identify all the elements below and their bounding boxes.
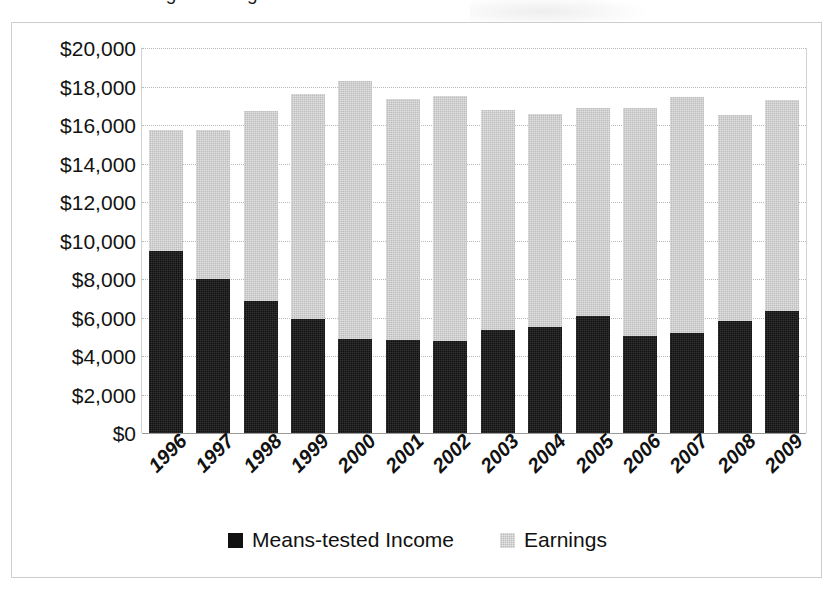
- x-axis-tick-label: 2006: [618, 430, 666, 478]
- x-axis: 1996199719981999200020012002200320042005…: [141, 435, 805, 505]
- bar-segment-means-tested-income[interactable]: [244, 301, 278, 433]
- bar-segment-means-tested-income[interactable]: [670, 333, 704, 433]
- bar-segment-earnings[interactable]: [481, 110, 515, 330]
- bar-segment-earnings[interactable]: [244, 111, 278, 302]
- y-axis-tick-label: $8,000: [18, 269, 136, 290]
- gridline: [142, 356, 806, 357]
- bar-segment-means-tested-income[interactable]: [765, 311, 799, 433]
- bar-segment-earnings[interactable]: [718, 115, 752, 321]
- gridline: [142, 48, 806, 49]
- y-axis-tick-label: $4,000: [18, 346, 136, 367]
- x-axis-tick-label: 1997: [191, 430, 239, 478]
- bar-group[interactable]: [528, 48, 562, 433]
- bar-segment-earnings[interactable]: [291, 94, 325, 319]
- bar-segment-earnings[interactable]: [433, 96, 467, 340]
- bar-group[interactable]: [481, 48, 515, 433]
- axis-baseline: [142, 433, 806, 434]
- gridline: [142, 318, 806, 319]
- bar-segment-means-tested-income[interactable]: [481, 330, 515, 433]
- bar-segment-earnings[interactable]: [338, 81, 372, 339]
- legend-label: Means-tested Income: [252, 528, 454, 552]
- gridline: [142, 241, 806, 242]
- legend-label: Earnings: [524, 528, 607, 552]
- x-axis-tick-label: 2004: [523, 430, 571, 478]
- y-axis: $20,000$18,000$16,000$14,000$12,000$10,0…: [12, 48, 136, 433]
- bar-segment-means-tested-income[interactable]: [623, 336, 657, 433]
- bar-segment-means-tested-income[interactable]: [291, 319, 325, 433]
- bar-group[interactable]: [670, 48, 704, 433]
- bar-group[interactable]: [765, 48, 799, 433]
- bar-segment-earnings[interactable]: [623, 108, 657, 336]
- x-axis-tick-label: 2001: [381, 430, 429, 478]
- y-axis-tick-label: $2,000: [18, 384, 136, 405]
- y-axis-tick-label: $18,000: [18, 76, 136, 97]
- legend-item[interactable]: Earnings: [500, 528, 607, 552]
- plot-area: [141, 48, 807, 433]
- bar-group[interactable]: [196, 48, 230, 433]
- gridline: [142, 87, 806, 88]
- y-axis-tick-label: $20,000: [18, 38, 136, 59]
- x-axis-tick-label: 2000: [333, 430, 381, 478]
- x-axis-tick-label: 2002: [428, 430, 476, 478]
- bar-segment-means-tested-income[interactable]: [338, 339, 372, 433]
- bar-segment-earnings[interactable]: [386, 99, 420, 340]
- bar-segment-means-tested-income[interactable]: [386, 340, 420, 433]
- bar-segment-earnings[interactable]: [528, 114, 562, 327]
- bar-group[interactable]: [386, 48, 420, 433]
- bar-group[interactable]: [623, 48, 657, 433]
- y-axis-tick-label: $0: [18, 423, 136, 444]
- legend-swatch-earnings-icon: [500, 533, 515, 548]
- bar-segment-earnings[interactable]: [670, 97, 704, 333]
- x-axis-tick-label: 1998: [239, 430, 287, 478]
- bar-segment-earnings[interactable]: [576, 108, 610, 316]
- x-axis-tick-label: 1996: [144, 430, 192, 478]
- x-axis-tick-label: 2009: [760, 430, 808, 478]
- bar-segment-means-tested-income[interactable]: [149, 251, 183, 433]
- y-axis-tick-label: $6,000: [18, 307, 136, 328]
- cut-off-chart-title: Exhibit 4. Average Earnings and Means-te…: [0, 0, 837, 16]
- x-axis-tick-label: 1999: [286, 430, 334, 478]
- gridline: [142, 125, 806, 126]
- x-axis-tick-label: 2007: [665, 430, 713, 478]
- gridline: [142, 164, 806, 165]
- bar-segment-means-tested-income[interactable]: [718, 321, 752, 433]
- legend-item[interactable]: Means-tested Income: [228, 528, 454, 552]
- bar-segment-earnings[interactable]: [149, 130, 183, 251]
- gridline: [142, 202, 806, 203]
- bar-group[interactable]: [338, 48, 372, 433]
- x-axis-tick-label: 2003: [476, 430, 524, 478]
- bar-group[interactable]: [718, 48, 752, 433]
- chart-legend: Means-tested IncomeEarnings: [12, 528, 823, 552]
- bar-segment-earnings[interactable]: [196, 130, 230, 279]
- bar-group[interactable]: [291, 48, 325, 433]
- bar-group[interactable]: [433, 48, 467, 433]
- y-axis-tick-label: $10,000: [18, 230, 136, 251]
- x-axis-tick-label: 2005: [571, 430, 619, 478]
- legend-swatch-means-icon: [228, 533, 243, 548]
- chart-frame: $20,000$18,000$16,000$14,000$12,000$10,0…: [11, 22, 822, 578]
- bar-segment-means-tested-income[interactable]: [528, 327, 562, 433]
- gridline: [142, 279, 806, 280]
- y-axis-tick-label: $14,000: [18, 153, 136, 174]
- bar-group[interactable]: [149, 48, 183, 433]
- bar-segment-earnings[interactable]: [765, 100, 799, 311]
- bar-group[interactable]: [576, 48, 610, 433]
- y-axis-tick-label: $16,000: [18, 115, 136, 136]
- x-axis-tick-label: 2008: [713, 430, 761, 478]
- y-axis-tick-label: $12,000: [18, 192, 136, 213]
- bar-segment-means-tested-income[interactable]: [196, 279, 230, 433]
- bar-segment-means-tested-income[interactable]: [433, 341, 467, 433]
- chart-title-text: Exhibit 4. Average Earnings and Means-te…: [34, 0, 492, 5]
- bar-segment-means-tested-income[interactable]: [576, 316, 610, 433]
- gridline: [142, 395, 806, 396]
- bar-group[interactable]: [244, 48, 278, 433]
